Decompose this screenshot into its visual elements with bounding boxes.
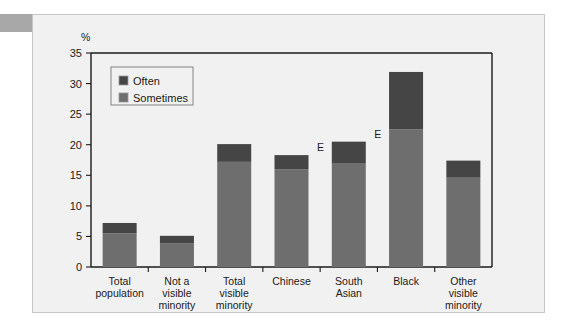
y-axis-tick-label: 35 <box>70 47 82 59</box>
y-axis-tick-label: 20 <box>70 139 82 151</box>
bar-segment-often <box>332 142 366 164</box>
bar-segment-sometimes <box>217 162 251 267</box>
corner-tab <box>0 14 32 32</box>
x-axis-category-label: Total <box>109 275 131 287</box>
bar-segment-often <box>103 223 137 233</box>
y-axis-tick-label: 5 <box>76 230 82 242</box>
bar-segment-sometimes <box>446 178 480 267</box>
x-axis-category-label: minority <box>445 299 483 311</box>
x-axis-category-label: visible <box>220 287 249 299</box>
legend-label: Sometimes <box>133 92 189 104</box>
x-axis-category-label: Total <box>223 275 245 287</box>
y-axis-tick-label: 10 <box>70 200 82 212</box>
legend-swatch <box>119 76 128 85</box>
chart-plot-area: %05101520253035TotalpopulationNot avisib… <box>33 15 544 312</box>
x-axis-category-label: Black <box>393 275 419 287</box>
x-axis-category-label: South <box>335 275 363 287</box>
x-axis-category-label: minority <box>216 299 254 311</box>
bar-segment-often <box>275 155 309 169</box>
bar-segment-often <box>446 161 480 178</box>
quality-marker-e: E <box>374 128 381 140</box>
x-axis-category-label: Not a <box>164 275 189 287</box>
bar-segment-sometimes <box>332 164 366 267</box>
x-axis-category-label: Chinese <box>272 275 311 287</box>
quality-marker-e: E <box>317 141 324 153</box>
x-axis-category-label: population <box>95 287 144 299</box>
x-axis-category-label: Asian <box>336 287 362 299</box>
bar-segment-sometimes <box>103 233 137 267</box>
bar-chart: %05101520253035TotalpopulationNot avisib… <box>33 15 546 314</box>
x-axis-category-label: Other <box>450 275 477 287</box>
x-axis-category-label: visible <box>162 287 191 299</box>
y-axis-tick-label: 25 <box>70 108 82 120</box>
bar-segment-sometimes <box>160 243 194 267</box>
x-axis-category-label: visible <box>449 287 478 299</box>
y-axis-unit-label: % <box>81 31 90 43</box>
bar-segment-often <box>217 144 251 162</box>
y-axis-tick-label: 0 <box>76 261 82 273</box>
chart-card: %05101520253035TotalpopulationNot avisib… <box>32 14 545 313</box>
bar-segment-often <box>389 72 423 129</box>
bar-segment-sometimes <box>275 169 309 267</box>
bar-segment-sometimes <box>389 129 423 267</box>
legend-label: Often <box>133 75 160 87</box>
bar-segment-often <box>160 236 194 243</box>
x-axis-category-label: minority <box>159 299 197 311</box>
legend-swatch <box>119 93 128 102</box>
y-axis-tick-label: 30 <box>70 78 82 90</box>
y-axis-tick-label: 15 <box>70 169 82 181</box>
